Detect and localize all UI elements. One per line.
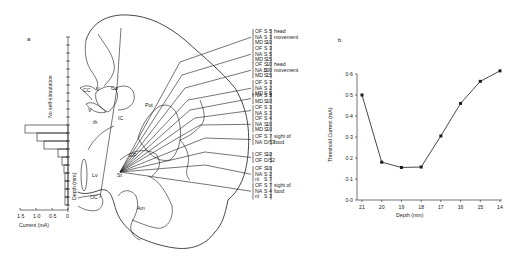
svg-text:movement: movement — [274, 67, 299, 73]
label-st: St — [117, 172, 122, 178]
svg-text:15: 15 — [477, 204, 483, 210]
annotation-block: OFS3NAS5MDS15 — [253, 45, 272, 63]
svg-text:0·0: 0·0 — [346, 197, 354, 203]
threshold-chart: 0·00·10·20·30·40·50·6 2120191817161514 — [346, 69, 503, 210]
svg-text:MD: MD — [255, 72, 263, 78]
x-tick-0: 0 — [66, 213, 69, 219]
annotation-block: OFS10OFD/52 — [253, 151, 275, 163]
chart-ylabel: Threshold Current (mA) — [327, 107, 333, 162]
svg-text:0·2: 0·2 — [346, 155, 354, 161]
svg-text:10: 10 — [266, 98, 272, 104]
svg-text:17: 17 — [438, 204, 444, 210]
svg-text:MD: MD — [255, 126, 263, 132]
data-point — [400, 166, 403, 169]
svg-text:16: 16 — [458, 204, 464, 210]
chart-xlabel: Depth (mm) — [396, 212, 424, 218]
svg-text:0·6: 0·6 — [346, 71, 354, 77]
svg-text:20: 20 — [379, 204, 385, 210]
data-point — [420, 166, 423, 169]
svg-text:food: food — [274, 188, 284, 194]
svg-text:movement: movement — [274, 34, 299, 40]
label-v: V — [96, 86, 100, 92]
svg-text:3: 3 — [269, 193, 272, 199]
histogram-title: No self-stimulation — [47, 75, 53, 118]
annotation-block: OFS4NAS10MDS10 — [253, 115, 272, 133]
x-tick-1-5: 1·5 — [17, 213, 25, 219]
annotation-block: OFS10NAS2nlS7 — [253, 165, 272, 183]
annotation-block: OFS5NAS3MDS10headmovement — [253, 28, 299, 46]
svg-text:0·4: 0·4 — [346, 113, 354, 119]
data-point — [439, 134, 442, 137]
svg-text:0·3: 0·3 — [346, 134, 354, 140]
svg-text:D/52: D/52 — [264, 157, 275, 163]
svg-text:14: 14 — [497, 204, 503, 210]
label-cc: CC — [83, 87, 91, 93]
annotation-block: OFS7NAS4nlS3sight offood — [253, 182, 291, 200]
svg-text:MD: MD — [255, 98, 263, 104]
label-v2: V — [88, 107, 92, 113]
label-oc: OC — [90, 194, 98, 200]
svg-text:OF: OF — [255, 157, 262, 163]
x-tick-1-0: 1·0 — [33, 213, 41, 219]
data-point — [459, 102, 462, 105]
label-ca: Ca — [111, 85, 118, 91]
brain-section-diagram — [78, 15, 249, 249]
histogram-xlabel: Current (mA) — [19, 222, 49, 228]
label-th: th — [93, 119, 97, 125]
svg-text:15: 15 — [266, 72, 272, 78]
svg-text:19: 19 — [399, 204, 405, 210]
label-ic: IC — [118, 115, 123, 121]
svg-text:21: 21 — [359, 204, 365, 210]
figure-canvas: a 1·5 1·0 0·5 0 Current (mA) No self-sti… — [0, 0, 517, 263]
label-lv: Lv — [92, 172, 98, 178]
label-am: Am — [137, 205, 145, 211]
data-point — [479, 80, 482, 83]
annotation-block: OFS10NAS100MDS15headmovement — [253, 61, 299, 79]
svg-text:10: 10 — [266, 126, 272, 132]
electrode-tracks — [120, 37, 251, 191]
data-point — [380, 161, 383, 164]
annotation-block: OFS7NAD/53sight offood — [253, 133, 291, 145]
svg-text:NA: NA — [255, 139, 263, 145]
panel-a-label: a — [27, 36, 31, 42]
panel-b-label: b — [338, 37, 342, 43]
data-point — [499, 69, 502, 72]
svg-text:S: S — [264, 193, 268, 199]
x-tick-0-5: 0·5 — [49, 213, 57, 219]
data-point — [361, 94, 364, 97]
histogram-ylabel: Depth (mm) — [71, 172, 77, 200]
svg-text:food: food — [274, 139, 284, 145]
svg-text:nl: nl — [255, 193, 259, 199]
svg-text:18: 18 — [418, 204, 424, 210]
svg-text:0·5: 0·5 — [346, 92, 354, 98]
depth-histogram — [20, 37, 70, 212]
svg-text:0·1: 0·1 — [346, 176, 354, 182]
electrode-annotations: OFS5NAS3MDS10headmovementOFS3NAS5MDS15OF… — [253, 28, 299, 200]
label-put: Put — [145, 102, 153, 108]
